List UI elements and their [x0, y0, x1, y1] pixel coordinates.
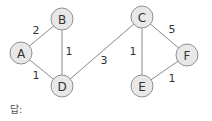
edge-weight-A-B: 2 [33, 24, 40, 37]
node-label-E: E [138, 80, 146, 94]
edge-weight-B-D: 1 [66, 45, 73, 58]
edge-weight-A-D: 1 [33, 69, 40, 82]
node-label-B: B [58, 13, 66, 27]
edge-weight-D-C: 3 [101, 54, 108, 67]
node-label-C: C [138, 11, 146, 25]
node-label-A: A [17, 47, 26, 61]
weighted-graph: 2113151ABCDEF [0, 0, 212, 121]
edge-weight-C-E: 1 [130, 45, 137, 58]
answer-label: 답: [10, 101, 22, 116]
edge-weight-E-F: 1 [169, 72, 176, 85]
node-label-D: D [57, 80, 66, 94]
edge-weight-C-F: 5 [169, 23, 176, 36]
node-label-F: F [184, 49, 191, 63]
